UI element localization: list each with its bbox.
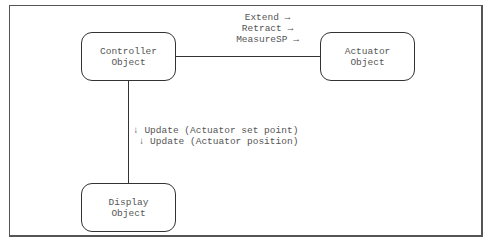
edge-controller-display	[128, 81, 129, 183]
message-extend: Extend →	[200, 13, 335, 24]
node-label-line1: Display	[109, 197, 149, 208]
message-measuresp: MeasureSP →	[200, 35, 335, 46]
node-label-line1: Controller	[100, 46, 157, 57]
message-update-position: ↓ Update (Actuator position)	[133, 137, 298, 148]
display-object-node: Display Object	[81, 183, 176, 232]
node-label-line2: Object	[111, 208, 145, 219]
edge-controller-actuator	[175, 56, 320, 57]
message-retract: Retract →	[200, 24, 335, 35]
controller-object-node: Controller Object	[81, 32, 176, 81]
node-label-line1: Actuator	[345, 46, 391, 57]
node-label-line2: Object	[111, 57, 145, 68]
node-label-line2: Object	[350, 57, 384, 68]
message-update-set-point: ↓ Update (Actuator set point)	[133, 126, 298, 137]
